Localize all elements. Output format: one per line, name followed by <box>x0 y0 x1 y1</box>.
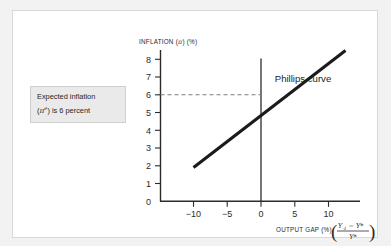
figure-page: Expected inflation (πe) is 6 percent INF… <box>0 0 391 246</box>
x-tick-label-10: 10 <box>323 209 333 219</box>
y-tick-label-0: 0 <box>146 197 151 207</box>
y-tick-label-6: 6 <box>146 90 151 100</box>
formula-denominator: Y* <box>349 233 357 241</box>
y-tick-label-2: 2 <box>146 161 151 171</box>
x-tick-label-0: 0 <box>258 209 263 219</box>
y-tick-label-4: 4 <box>146 126 151 136</box>
figure-card: Expected inflation (πe) is 6 percent INF… <box>12 10 378 238</box>
y-tick-label-7: 7 <box>146 72 151 82</box>
y-tick-label-3: 3 <box>146 143 151 153</box>
y-tick-label-8: 8 <box>146 55 151 65</box>
y-tick-label-5: 5 <box>146 108 151 118</box>
phillips-curve-plot: INFLATION (π) (%) 8 7 6 5 4 3 2 1 0 <box>13 11 391 246</box>
x-tick-label-neg10: −10 <box>186 209 201 219</box>
formula-paren-close: ) <box>369 221 375 243</box>
y-tick-label-1: 1 <box>146 179 151 189</box>
x-tick-label-neg5: −5 <box>222 209 232 219</box>
formula-paren-open: ( <box>331 221 337 243</box>
formula-numerator: Y-1 − Y* <box>338 222 364 231</box>
x-tick-label-5: 5 <box>292 209 297 219</box>
phillips-curve-label: Phillips curve <box>275 73 332 84</box>
phillips-curve-line <box>194 51 346 168</box>
output-gap-formula: ( Y-1 − Y* Y* ) <box>331 221 375 243</box>
x-axis-title: OUTPUT GAP (%) <box>276 226 332 234</box>
y-axis-title: INFLATION (π) (%) <box>139 38 197 46</box>
